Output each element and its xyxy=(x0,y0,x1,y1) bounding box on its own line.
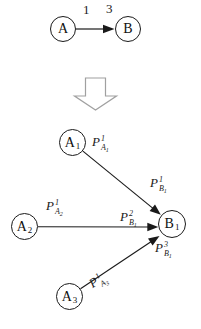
edge-label-p2-b1: P 2 B1 xyxy=(120,210,137,228)
node-b1-sub: 1 xyxy=(175,223,180,232)
node-a1-sub: 1 xyxy=(76,142,81,151)
node-b1: B1 xyxy=(158,210,186,238)
edge-weight-1: 1 xyxy=(83,3,90,16)
node-b-label: B xyxy=(123,22,132,36)
edge-label-p1-b1: P 1 B1 xyxy=(150,176,167,194)
node-a2: A2 xyxy=(11,213,38,240)
arrowhead-a-b-icon xyxy=(103,25,115,33)
edge-label-p1-a1: P 1 A1 xyxy=(92,135,109,153)
node-a: A xyxy=(50,16,76,42)
edge-a1-b1 xyxy=(83,151,153,208)
node-a1: A1 xyxy=(59,129,86,156)
node-b1-label: B xyxy=(165,217,174,231)
node-b: B xyxy=(115,16,141,42)
edge-label-p3-b1: P 3 B1 xyxy=(155,241,172,259)
down-block-arrow-icon xyxy=(75,78,117,110)
diagram-canvas: A B 1 3 A1 A2 A3 B1 P 1 A1 P 1 B1 P 1 A2 xyxy=(0,0,201,329)
node-a3: A3 xyxy=(56,283,83,310)
arrowhead-a1-b1-icon xyxy=(150,205,161,215)
edge-weight-3: 3 xyxy=(106,2,113,15)
node-a1-label: A xyxy=(65,136,75,150)
node-a2-sub: 2 xyxy=(28,226,33,235)
arrowhead-a2-b1-icon xyxy=(147,223,158,231)
node-a3-sub: 3 xyxy=(73,296,78,305)
node-a3-label: A xyxy=(62,290,72,304)
node-a-label: A xyxy=(58,22,68,36)
edge-label-p1-a2: P 1 A2 xyxy=(46,199,63,217)
node-a2-label: A xyxy=(17,220,27,234)
